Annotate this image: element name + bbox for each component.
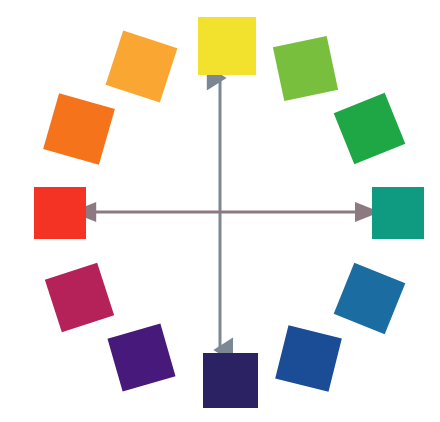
color-swatch-red: [34, 187, 86, 239]
color-swatch-yellow: [198, 17, 256, 75]
color-wheel-figure: [0, 0, 440, 422]
color-swatch-violet: [203, 353, 258, 408]
color-swatch-green: [334, 93, 406, 165]
color-swatch-blue: [334, 263, 406, 335]
color-swatch-red-purple: [45, 263, 114, 332]
color-swatch-yellow-orange: [106, 31, 178, 103]
color-swatch-red-violet: [107, 323, 175, 391]
color-swatch-yellow-green: [273, 36, 338, 101]
color-swatch-blue-violet: [275, 325, 342, 392]
color-swatch-orange: [43, 93, 115, 165]
color-swatch-blue-green: [372, 187, 424, 239]
